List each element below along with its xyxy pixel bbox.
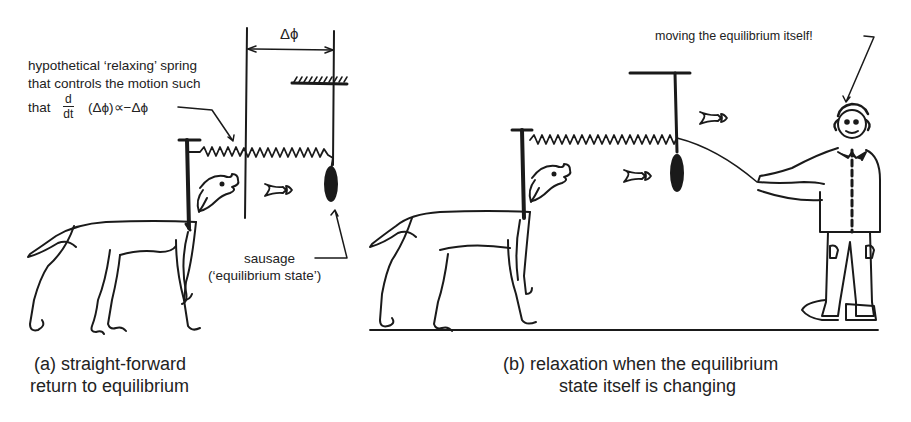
delta-phi-label: Δϕ [280, 25, 298, 42]
post-icon [512, 130, 532, 218]
sausage-icon [325, 167, 337, 201]
fish-arrow-icon [265, 184, 292, 196]
sausage-icon [671, 155, 683, 191]
post-icon [179, 140, 200, 228]
spring-annotation-line3: that [28, 99, 51, 116]
delta-left-line [245, 28, 247, 218]
spring-icon [530, 135, 676, 144]
derivative-fraction: d dt [63, 93, 74, 120]
fish-arrow-icon [700, 112, 727, 124]
delta-dimension-arrow-icon [248, 46, 333, 53]
rope-line [677, 138, 757, 182]
clown-icon [758, 104, 880, 320]
dog-icon [28, 174, 238, 334]
derivative-numerator: d [63, 93, 74, 107]
sausage-leader-arrow-icon [315, 210, 347, 258]
caption-a-line2: return to equilibrium [30, 375, 189, 397]
caption-b-line1: (b) relaxation when the equilibrium [503, 353, 778, 375]
spring-annotation-line2: that controls the motion such [28, 75, 201, 92]
delta-right-line [333, 31, 334, 165]
dog-icon [370, 164, 570, 331]
caption-a-line1: (a) straight-forward [34, 353, 186, 375]
sausage-sublabel: (‘equilibrium state’) [208, 267, 321, 284]
clown-annotation: moving the equilibrium itself! [655, 28, 813, 45]
panel-b-artwork [370, 36, 880, 331]
spring-annotation-line1: hypothetical ‘relaxing’ spring [28, 57, 197, 74]
caption-b-line2: state itself is changing [559, 375, 736, 397]
derivative-denominator: dt [63, 107, 74, 120]
hatched-support-icon [292, 77, 347, 84]
sausage-label: sausage [244, 250, 295, 267]
formula-text: (Δϕ)∝−Δϕ [88, 99, 148, 116]
clown-leader-arrow-icon [843, 36, 874, 102]
spring-icon [189, 147, 333, 158]
fish-arrow-icon [624, 170, 651, 182]
spring-leader-arrow-icon [178, 107, 234, 141]
